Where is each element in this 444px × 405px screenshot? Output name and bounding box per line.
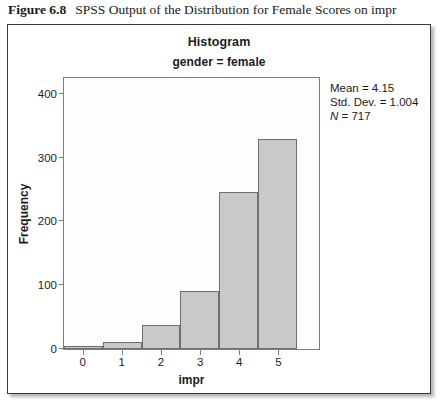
y-axis-tick-label: 100 [38,279,64,291]
x-axis-ticks: 012345 [63,350,320,372]
histogram-bar-slot [258,78,297,349]
stat-mean: Mean = 4.15 [330,81,418,95]
spss-output-frame: Histogram gender = female Frequency 0100… [7,24,431,394]
stat-n-value: = 717 [338,110,370,122]
x-axis-tick-label: 5 [259,356,298,368]
chart-title: Histogram [8,35,430,49]
figure-caption-label: Figure 6.8 [8,2,66,17]
histogram-bar-slot [180,78,219,349]
histogram-bar-slot [142,78,181,349]
x-axis-tick: 5 [259,350,298,372]
x-axis-tick-label: 1 [102,356,141,368]
x-axis-tick-mark [161,350,162,355]
histogram-bar [142,325,181,349]
x-axis-tick: 3 [181,350,220,372]
histogram-bar-slot [219,78,258,349]
histogram-bar [258,139,297,349]
x-axis-tick-mark [278,350,279,355]
x-axis-tick-label: 2 [141,356,180,368]
figure-caption: Figure 6.8SPSS Output of the Distributio… [8,2,438,20]
y-axis-tick-label: 300 [38,152,64,164]
stat-std-dev: Std. Dev. = 1.004 [330,95,418,109]
histogram-bar [180,291,219,349]
chart-subtitle: gender = female [8,55,430,69]
y-axis-title: Frequency [16,77,32,350]
x-axis-tick-mark [83,350,84,355]
stat-n: N = 717 [330,109,418,123]
histogram-bar [64,346,103,349]
x-axis-tick: 0 [63,350,102,372]
histogram-bar [219,192,258,349]
statistics-annotation: Mean = 4.15 Std. Dev. = 1.004 N = 717 [330,81,418,123]
histogram-bar-slot [103,78,142,349]
x-axis-tick: 2 [141,350,180,372]
x-axis-tick-mark [200,350,201,355]
x-axis-tick-label: 4 [220,356,259,368]
y-axis-tick-label: 0 [51,343,64,355]
histogram-bar [103,342,142,349]
y-axis-tick-label: 400 [38,88,64,100]
x-axis-tick-mark [239,350,240,355]
x-axis-title: impr [63,373,320,387]
x-axis-tick-label: 0 [63,356,102,368]
x-axis-tick-label: 3 [181,356,220,368]
y-axis-tick-label: 200 [38,215,64,227]
x-axis-tick-mark [122,350,123,355]
y-axis-title-label: Frequency [17,183,31,244]
plot-area: 0100200300400 [63,77,320,350]
histogram-bar-slot [64,78,103,349]
plot-right-padding [297,78,319,349]
x-axis-tick: 4 [220,350,259,372]
x-axis-tick: 1 [102,350,141,372]
histogram-bars [64,78,319,349]
x-axis-right-padding [298,350,320,372]
figure-caption-text: SPSS Output of the Distribution for Fema… [66,2,396,17]
